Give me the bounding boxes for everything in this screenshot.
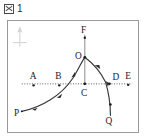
- diagram-canvas: A B C D E O F Q P: [8, 21, 138, 132]
- point-label-A: A: [30, 71, 37, 81]
- boxed-zu-icon: [4, 4, 14, 14]
- direction-arrowhead-icon-3: [71, 72, 75, 78]
- point-label-P: P: [14, 108, 19, 118]
- point-dot-D: [108, 82, 111, 85]
- figure-caption: 1: [4, 2, 23, 16]
- figure-page: 1: [0, 0, 147, 140]
- figure-number: 1: [17, 4, 23, 14]
- point-label-C: C: [81, 88, 87, 98]
- point-label-O: O: [75, 51, 82, 61]
- point-label-F: F: [81, 25, 86, 35]
- point-label-B: B: [55, 71, 61, 81]
- point-dot-P: [21, 110, 23, 112]
- point-dot-C: [83, 82, 86, 85]
- point-label-Q: Q: [106, 116, 113, 126]
- north-arrow-icon: [13, 27, 27, 47]
- point-label-D: D: [112, 72, 119, 82]
- point-label-E: E: [125, 71, 131, 81]
- point-dot-E: [127, 84, 129, 86]
- point-dot-A: [32, 84, 34, 86]
- figure-frame: A B C D E O F Q P: [7, 20, 139, 133]
- point-dot-B: [58, 84, 60, 86]
- point-dot-O: [83, 56, 86, 59]
- point-dot-F: [84, 37, 86, 39]
- point-dot-Q: [109, 103, 112, 106]
